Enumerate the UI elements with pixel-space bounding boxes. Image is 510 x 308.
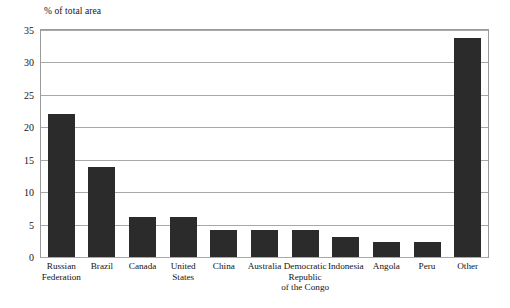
x-tick-label-line: Republic [281,272,330,283]
x-tick-label: Other [443,261,492,272]
x-tick-label-line: Other [443,261,492,272]
y-tick-label: 10 [4,187,34,198]
bars-layer [41,30,488,257]
y-tick-label: 30 [4,57,34,68]
x-axis-labels: RussianFederationBrazilCanadaUnitedState… [41,261,488,307]
bar[interactable] [454,38,481,257]
y-axis-caption: % of total area [44,6,101,16]
y-tick-label: 5 [4,219,34,230]
bar[interactable] [210,230,237,257]
y-tick-label: 20 [4,122,34,133]
y-tick-label: 0 [4,252,34,263]
bar[interactable] [332,237,359,257]
y-tick-label: 15 [4,154,34,165]
bar[interactable] [414,242,441,257]
y-tick-label: 35 [4,25,34,36]
bar[interactable] [48,114,75,257]
bar[interactable] [251,230,278,257]
gridline [41,257,488,258]
bar[interactable] [373,242,400,257]
y-tick-label: 25 [4,89,34,100]
bar[interactable] [170,217,197,257]
x-tick-label-line: of the Congo [281,282,330,293]
x-tick-label-line: States [159,272,208,283]
x-tick-label-line: Federation [37,272,86,283]
bar[interactable] [292,230,319,257]
bar-chart: % of total area 05101520253035 RussianFe… [0,0,510,308]
bar[interactable] [88,167,115,257]
bar[interactable] [129,217,156,257]
